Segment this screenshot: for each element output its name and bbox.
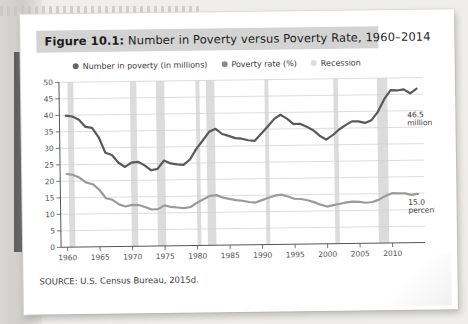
figure-title-bar: Figure 10.1: Number in Poverty versus Po…	[36, 26, 378, 52]
xtick-label-1960: 1960	[58, 253, 77, 262]
legend-swatch-number-in-poverty	[73, 63, 79, 69]
printed-page: Figure 10.1: Number in Poverty versus Po…	[20, 9, 458, 315]
figure-title: Figure 10.1: Number in Poverty versus Po…	[36, 29, 430, 48]
chart-legend: Number in poverty (in millions) Poverty …	[37, 54, 397, 75]
ytick-label-40: 40	[44, 111, 54, 120]
legend-item-number-in-poverty: Number in poverty (in millions)	[73, 60, 208, 71]
legend-item-poverty-rate: Poverty rate (%)	[221, 59, 297, 69]
series-line-0	[66, 89, 418, 172]
ytick-label-15: 15	[45, 194, 55, 203]
ytick-label-30: 30	[44, 144, 54, 153]
poverty-line-chart: 0510152025303540455019601965197019751980…	[33, 71, 436, 271]
gridline-y-30	[60, 144, 424, 149]
xtick-label-1970: 1970	[123, 252, 142, 261]
gridline-y-35	[60, 127, 424, 132]
annotation-rate-line2: percent	[408, 205, 435, 214]
xtick-label-1965: 1965	[91, 253, 110, 262]
gridline-y-45	[59, 94, 423, 99]
ytick-label-45: 45	[44, 95, 54, 104]
legend-swatch-recession	[311, 60, 317, 66]
chart-area: 0510152025303540455019601965197019751980…	[33, 71, 436, 271]
legend-item-recession: Recession	[311, 58, 361, 68]
ytick-label-0: 0	[50, 243, 55, 252]
legend-label-poverty-rate: Poverty rate (%)	[231, 59, 297, 69]
gridline-y-10	[61, 210, 425, 215]
xtick-label-1985: 1985	[221, 251, 240, 260]
gridline-y-20	[60, 177, 424, 182]
xtick-label-2000: 2000	[318, 250, 337, 259]
photo-scene: Figure 10.1: Number in Poverty versus Po…	[0, 0, 468, 324]
gridline-y-50	[59, 78, 423, 83]
ytick-label-20: 20	[45, 177, 55, 186]
x-axis	[61, 243, 425, 248]
ytick-label-50: 50	[43, 78, 53, 87]
figure-source: SOURCE: U.S. Census Bureau, 2015d.	[39, 275, 198, 287]
ytick-label-5: 5	[50, 227, 55, 236]
xtick-label-1980: 1980	[188, 251, 207, 260]
annotation-number-line2: million	[407, 118, 432, 127]
xtick-label-1990: 1990	[253, 251, 272, 260]
gridline-y-25	[60, 160, 424, 165]
series-line-1	[67, 169, 418, 210]
legend-label-recession: Recession	[321, 58, 361, 68]
ytick-label-25: 25	[44, 161, 54, 170]
gridline-y-40	[59, 111, 423, 116]
xtick-label-2010: 2010	[383, 249, 402, 258]
gridline-y-15	[60, 193, 424, 198]
ytick-label-35: 35	[44, 128, 54, 137]
ytick-label-10: 10	[45, 210, 55, 219]
xtick-label-1995: 1995	[286, 250, 305, 259]
legend-label-number-in-poverty: Number in poverty (in millions)	[83, 60, 208, 71]
xtick-label-1975: 1975	[156, 252, 175, 261]
legend-swatch-poverty-rate	[221, 61, 227, 67]
gridline-y-5	[61, 226, 425, 231]
xtick-label-2005: 2005	[351, 249, 370, 258]
figure-label: Figure 10.1:	[44, 33, 124, 48]
figure-title-text: Number in Poverty versus Poverty Rate, 1…	[124, 29, 430, 47]
